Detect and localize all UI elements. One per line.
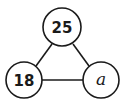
node-top-label: 25	[52, 19, 73, 37]
triangle-diagram: 25 18 a	[0, 0, 125, 105]
node-left-label: 18	[14, 72, 35, 90]
node-right-label: a	[96, 69, 106, 89]
node-top: 25	[43, 8, 81, 46]
node-left: 18	[6, 62, 42, 98]
edge-top-left	[36, 44, 52, 66]
node-right: a	[83, 62, 119, 98]
edge-top-right	[73, 44, 89, 66]
